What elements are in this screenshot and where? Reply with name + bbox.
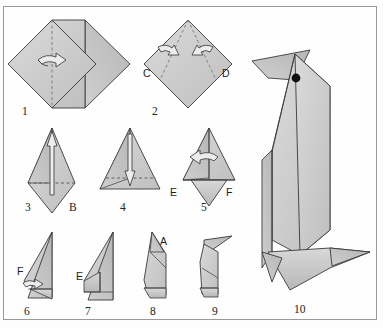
step-7-label-e: E xyxy=(76,270,83,282)
step-number-7: 7 xyxy=(85,305,91,317)
step-number-5: 5 xyxy=(201,201,207,213)
step-9-body xyxy=(200,244,218,294)
step-number-2: 2 xyxy=(152,105,158,117)
penguin-tail xyxy=(330,248,370,266)
step-9-foot-flap xyxy=(200,288,218,297)
step-4-left-panel xyxy=(100,128,130,189)
step-8-foot-flap xyxy=(144,288,166,298)
step-2-label-c: C xyxy=(143,67,151,79)
step-number-1: 1 xyxy=(22,105,28,117)
penguin-body-front xyxy=(262,150,272,268)
step-number-9: 9 xyxy=(212,305,218,317)
step-6-diagram: F xyxy=(17,232,52,299)
step-number-6: 6 xyxy=(24,305,30,317)
step-6-label-f: F xyxy=(17,265,23,277)
step-1-diagram xyxy=(8,20,130,108)
step-number-10: 10 xyxy=(294,303,306,315)
origami-diagram: C D B E F xyxy=(0,0,383,328)
step-5-bottom-flap xyxy=(191,180,227,206)
step-3-diagram: B xyxy=(28,128,77,213)
step-2-label-d: D xyxy=(222,67,230,79)
step-10-finished-penguin xyxy=(252,50,370,290)
step-4-diagram xyxy=(100,128,160,189)
step-9-diagram xyxy=(200,236,232,297)
penguin-eye-icon xyxy=(292,74,301,83)
step-2-paper xyxy=(144,20,232,108)
step-6-body xyxy=(28,232,52,298)
step-3-label-b: B xyxy=(69,201,77,213)
step-8-label-a: A xyxy=(160,235,167,247)
step-8-diagram: A xyxy=(144,232,167,298)
step-5-label-e: E xyxy=(170,186,177,198)
step-number-8: 8 xyxy=(150,305,156,317)
step-5-label-f: F xyxy=(226,186,232,198)
penguin-back-edge xyxy=(295,54,330,255)
step-2-diagram: C D xyxy=(143,20,232,108)
step-7-diagram: E xyxy=(76,232,113,300)
step-number-3: 3 xyxy=(25,201,31,213)
origami-instruction-figure: C D B E F xyxy=(0,0,383,328)
step-3-left-flap xyxy=(28,128,52,183)
step-5-diagram: E F xyxy=(170,128,235,206)
step-number-4: 4 xyxy=(120,201,126,213)
